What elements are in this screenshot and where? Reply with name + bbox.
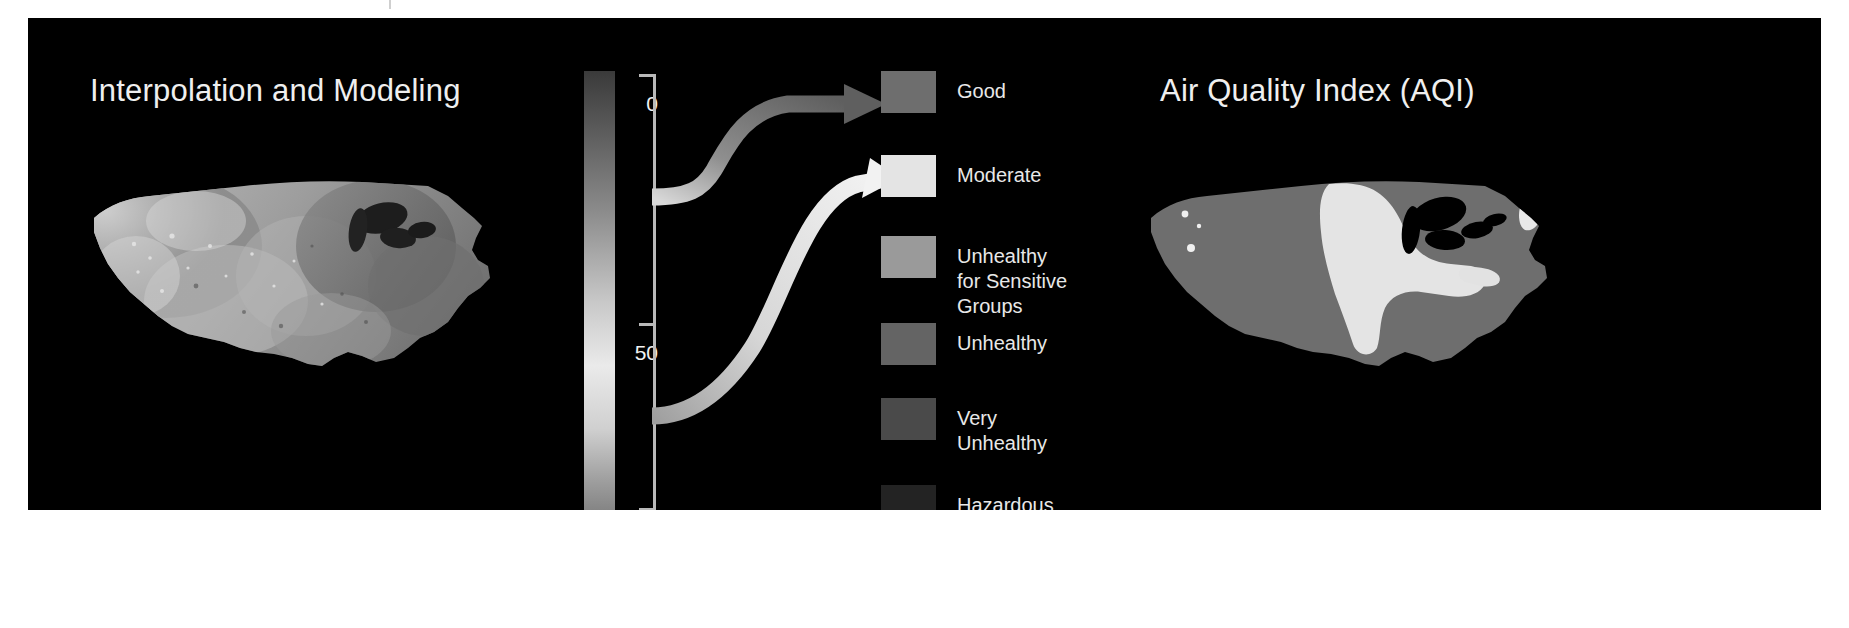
color-swatch-icon — [881, 236, 936, 278]
legend-item-label: Unhealthy for Sensitive Groups — [957, 236, 1067, 319]
aqi-classified-map — [1133, 126, 1565, 408]
value-colorbar — [584, 71, 615, 510]
mapping-arrows — [648, 58, 913, 458]
legend-item-unhealthy-sensitive[interactable]: Unhealthy for Sensitive Groups — [881, 236, 1067, 319]
aqi-classified-map-svg — [1133, 126, 1565, 408]
left-panel-title: Interpolation and Modeling — [90, 73, 461, 109]
interpolation-raster — [76, 126, 508, 408]
legend-item-label: Hazardous — [957, 485, 1054, 510]
legend-item-moderate[interactable]: Moderate — [881, 155, 1042, 197]
color-swatch-icon — [881, 155, 936, 197]
color-swatch-icon — [881, 323, 936, 365]
legend-item-unhealthy[interactable]: Unhealthy — [881, 323, 1047, 365]
slide-canvas: Interpolation and Modeling — [0, 0, 1849, 628]
color-swatch-icon — [881, 485, 936, 510]
legend-item-very-unhealthy[interactable]: Very Unhealthy — [881, 398, 1047, 456]
interpolation-map-svg — [76, 126, 508, 408]
color-swatch-icon — [881, 398, 936, 440]
aqi-classified-raster — [1133, 126, 1565, 408]
legend-item-label: Very Unhealthy — [957, 398, 1047, 456]
axis-tick-91 — [639, 508, 654, 510]
interpolation-map — [76, 126, 508, 408]
aqi-category-legend: Good Moderate Unhealthy for Sensitive Gr… — [881, 71, 1131, 510]
legend-item-good[interactable]: Good — [881, 71, 1006, 113]
page-margin-strip — [0, 0, 1849, 18]
legend-item-hazardous[interactable]: Hazardous — [881, 485, 1054, 510]
legend-item-label: Moderate — [957, 155, 1042, 188]
color-swatch-icon — [881, 71, 936, 113]
legend-item-label: Good — [957, 71, 1006, 104]
slide-panel: Interpolation and Modeling — [28, 18, 1821, 510]
right-panel-title: Air Quality Index (AQI) — [1160, 73, 1475, 109]
page-tick-mark — [389, 0, 391, 9]
legend-item-label: Unhealthy — [957, 323, 1047, 356]
